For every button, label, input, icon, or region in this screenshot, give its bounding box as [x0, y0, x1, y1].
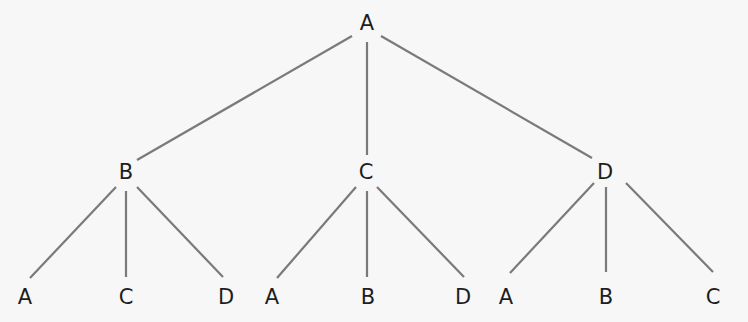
edge-n-d-to-n-d-a — [510, 183, 594, 273]
leaf-b-d: D — [211, 284, 241, 310]
leaf-d-b: B — [591, 284, 621, 310]
edge-root-to-n-b — [137, 36, 352, 160]
root-node-a: A — [352, 10, 382, 36]
edge-root-to-n-d — [381, 36, 592, 158]
edge-n-c-to-n-c-d — [377, 187, 464, 277]
node-d: D — [590, 159, 620, 185]
leaf-d-a: A — [491, 284, 521, 310]
edge-n-b-to-n-b-a — [30, 187, 116, 278]
node-c: C — [351, 159, 381, 185]
edge-n-d-to-n-d-c — [626, 183, 713, 272]
leaf-c-d: D — [448, 284, 478, 310]
leaf-d-c: C — [698, 284, 728, 310]
leaf-b-c: C — [111, 284, 141, 310]
node-b: B — [111, 159, 141, 185]
edge-n-b-to-n-b-d — [137, 187, 223, 277]
edge-n-c-to-n-c-a — [277, 187, 356, 278]
leaf-c-a: A — [257, 284, 287, 310]
leaf-c-b: B — [353, 284, 383, 310]
leaf-b-a: A — [10, 284, 40, 310]
tree-diagram: A B C D A C D A B D A B C — [0, 0, 748, 322]
